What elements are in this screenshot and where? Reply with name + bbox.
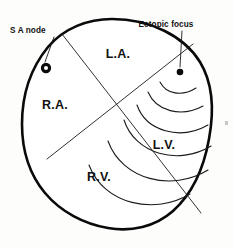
chamber-label-left-ventricle: L.V. bbox=[153, 138, 176, 152]
ectopic-focus-marker-icon bbox=[177, 69, 184, 76]
chamber-label-right-ventricle: R.V. bbox=[87, 170, 111, 184]
chamber-label-right-atrium: R.A. bbox=[42, 98, 68, 112]
heart-diagram-figure: S A node Ectopic focus L.A. R.A. L.V. R.… bbox=[0, 0, 234, 248]
sa-node-label: S A node bbox=[10, 26, 46, 35]
heart-diagram-canvas: S A node Ectopic focus L.A. R.A. L.V. R.… bbox=[0, 0, 234, 248]
chamber-label-left-atrium: L.A. bbox=[106, 47, 130, 61]
ectopic-focus-label: Ectopic focus bbox=[139, 20, 194, 29]
scan-speck bbox=[225, 121, 228, 125]
